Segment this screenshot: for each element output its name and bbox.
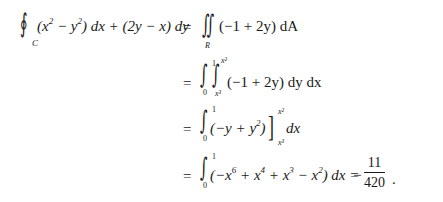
outer-lower-limit: 0 (203, 88, 207, 97)
integral-symbol-3: ∫ (200, 107, 207, 133)
equals-sign-1: = (183, 19, 191, 36)
lower-limit-3: 0 (203, 134, 207, 143)
lower-limit-4: 0 (203, 181, 207, 190)
antiderivative-expression: (−y + y2) (210, 121, 266, 136)
outer-integral-symbol: ∫ (200, 61, 207, 87)
trailing-period: . (392, 172, 396, 187)
upper-limit-4: 1 (212, 152, 216, 161)
lhs-integrand: (x2 − y2) dx + (2y − x) dy (37, 19, 189, 34)
inner-integral-symbol: ∫ (212, 61, 219, 87)
contour-integral-symbol: ∮ (20, 10, 28, 36)
upper-limit-3: 1 (212, 105, 216, 114)
result-fraction: 11 420 (364, 155, 385, 191)
inner-lower-limit: x³ (215, 89, 221, 98)
differential-3: dx (286, 121, 300, 136)
result-denominator: 420 (364, 173, 385, 191)
line-2-integrand: (−1 + 2y) dy dx (227, 75, 321, 90)
integral-symbol-4: ∫ (200, 154, 207, 180)
contour-subscript: C (32, 38, 38, 48)
result-sign: − (353, 168, 361, 183)
rhs-integrand: (−1 + 2y) dA (219, 19, 298, 34)
eval-upper-limit: x² (278, 107, 284, 116)
eval-lower-limit: x³ (278, 138, 284, 147)
double-integral-symbol: ∬ (202, 11, 214, 37)
equals-sign-2: = (183, 75, 191, 92)
equals-sign-3: = (183, 121, 191, 138)
inner-upper-limit: x² (221, 56, 227, 65)
region-subscript: R (205, 41, 210, 50)
evaluation-bracket: ] (268, 111, 274, 141)
result-numerator: 11 (364, 155, 385, 173)
polynomial-integrand: (−x6 + x4 + x3 − x2) dx = (210, 168, 359, 183)
equals-sign-4: = (183, 168, 191, 185)
